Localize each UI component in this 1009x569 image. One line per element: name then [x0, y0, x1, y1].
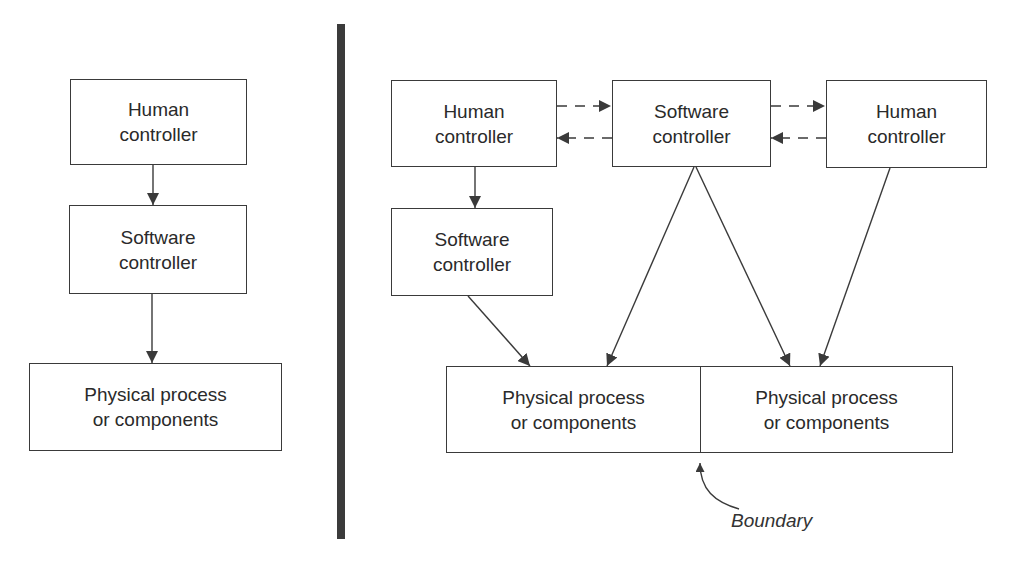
boundary-label: Boundary [731, 510, 812, 532]
boundary-pointer-arrow [700, 463, 739, 509]
arrow-lower-software-to-physical-left [468, 296, 530, 366]
arrow-top-software-to-physical-left [607, 167, 694, 366]
connector-layer [0, 0, 1009, 569]
arrow-top-software-to-physical-right [696, 167, 790, 366]
arrow-human-right-to-physical-right [820, 168, 890, 366]
